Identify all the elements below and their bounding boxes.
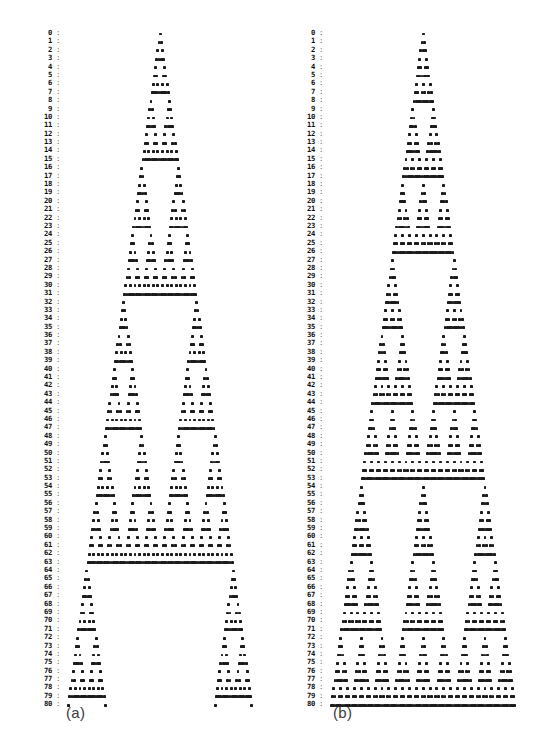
- pattern-dot: [502, 620, 505, 623]
- pattern-dot: [481, 670, 484, 673]
- pattern-dot: [179, 486, 182, 489]
- pattern-dot: [389, 393, 392, 396]
- pattern-dot: [166, 83, 169, 86]
- pattern-dot: [127, 335, 130, 338]
- pattern-dot: [106, 553, 109, 556]
- pattern-dot: [352, 578, 355, 581]
- pattern-dot: [115, 519, 118, 522]
- pattern-dot: [184, 284, 187, 287]
- pattern-dot: [433, 117, 436, 120]
- pattern-dot: [489, 679, 492, 682]
- pattern-dot: [115, 419, 118, 422]
- pattern-dot: [82, 612, 85, 615]
- pattern-dot: [116, 393, 119, 396]
- pattern-dot: [221, 687, 224, 690]
- pattern-dot: [447, 217, 450, 220]
- pattern-dot: [172, 133, 175, 136]
- pattern-dot: [456, 284, 459, 287]
- pattern-dot: [434, 578, 437, 581]
- pattern-dot: [151, 242, 154, 245]
- pattern-dot: [114, 511, 117, 514]
- pattern-dot: [227, 603, 230, 606]
- pattern-dot: [364, 469, 367, 472]
- pattern-dot: [415, 234, 418, 237]
- pattern-dot: [237, 603, 240, 606]
- pattern-dot: [442, 184, 445, 187]
- pattern-dot: [205, 368, 208, 371]
- pattern-dot: [389, 293, 392, 296]
- pattern-dot: [402, 393, 405, 396]
- pattern-dot: [457, 695, 460, 698]
- pattern-dot: [351, 570, 354, 573]
- pattern-dot: [183, 276, 186, 279]
- pattern-dot: [115, 553, 118, 556]
- pattern-dot: [79, 687, 82, 690]
- pattern-dot: [471, 595, 474, 598]
- pattern-dot: [490, 536, 493, 539]
- pattern-dot: [111, 553, 114, 556]
- pattern-dot: [354, 695, 357, 698]
- pattern-dot: [210, 410, 213, 413]
- pattern-dot: [143, 452, 146, 455]
- pattern-dot: [194, 293, 197, 296]
- pattern-dot: [169, 242, 172, 245]
- pattern-dot: [106, 452, 109, 455]
- pattern-dot: [426, 519, 429, 522]
- pattern-dot: [444, 192, 447, 195]
- pattern-dot: [383, 351, 386, 354]
- pattern-dot: [446, 209, 449, 212]
- pattern-dot: [353, 687, 356, 690]
- pattern-dot: [426, 217, 429, 220]
- pattern-dot: [170, 284, 173, 287]
- pattern-dot: [148, 494, 151, 497]
- pattern-dot: [418, 58, 421, 61]
- pattern-dot: [401, 234, 404, 237]
- pattern-dot: [145, 469, 148, 472]
- pattern-dot: [200, 536, 203, 539]
- pattern-dot: [460, 662, 463, 665]
- pattern-dot: [92, 654, 95, 657]
- pattern-dot: [99, 469, 102, 472]
- pattern-dot: [137, 477, 140, 480]
- pattern-dot: [488, 670, 491, 673]
- pattern-dot: [218, 469, 221, 472]
- pattern-dot: [361, 645, 364, 648]
- pattern-dot: [425, 461, 428, 464]
- pattern-dot: [127, 536, 130, 539]
- pattern-dot: [369, 553, 372, 556]
- pattern-dot: [342, 654, 345, 657]
- pattern-dot: [432, 158, 435, 161]
- pattern-dot: [432, 461, 435, 464]
- pattern-dot: [104, 435, 107, 438]
- pattern-dot: [183, 410, 186, 413]
- pattern-dot: [394, 435, 397, 438]
- pattern-dot: [161, 553, 164, 556]
- pattern-dot: [192, 544, 195, 547]
- pattern-dot: [137, 209, 140, 212]
- pattern-dot: [481, 620, 484, 623]
- pattern-dot: [401, 184, 404, 187]
- pattern-dot: [407, 226, 410, 229]
- pattern-dot: [79, 620, 82, 623]
- pattern-dot: [221, 486, 224, 489]
- pattern-dot: [492, 695, 495, 698]
- pattern-dot: [508, 662, 511, 665]
- pattern-dot: [198, 351, 201, 354]
- pattern-dot: [361, 695, 364, 698]
- pattern-dot: [211, 553, 214, 556]
- pattern-dot: [169, 108, 172, 111]
- pattern-dot: [347, 695, 350, 698]
- pattern-dot: [469, 377, 472, 380]
- pattern-dot: [177, 435, 180, 438]
- pattern-dot: [495, 620, 498, 623]
- pattern-dot: [477, 586, 480, 589]
- pattern-dot: [170, 519, 173, 522]
- pattern-dot: [193, 318, 196, 321]
- pattern-dot: [160, 41, 163, 44]
- pattern-dot: [381, 385, 384, 388]
- pattern-dot: [184, 217, 187, 220]
- pattern-dot: [481, 469, 484, 472]
- pattern-dot: [224, 645, 227, 648]
- pattern-dot: [108, 536, 111, 539]
- pattern-dot: [433, 570, 436, 573]
